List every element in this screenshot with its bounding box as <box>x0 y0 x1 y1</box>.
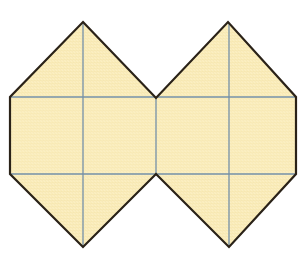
figure-canvas: Net of two square pyramids joined at a c… <box>0 0 305 258</box>
paper-band-highlight <box>0 95 305 177</box>
net-diagram: Net of two square pyramids joined at a c… <box>0 0 305 258</box>
net-fill-group <box>0 0 305 258</box>
